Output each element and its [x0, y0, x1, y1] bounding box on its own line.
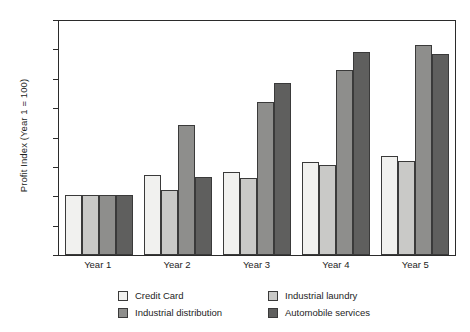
bar — [274, 83, 291, 255]
plot-border-right — [455, 20, 456, 256]
legend-item-label: Industrial laundry — [285, 290, 357, 301]
bar — [65, 195, 82, 256]
bar — [257, 102, 274, 255]
bar — [432, 54, 449, 256]
bar — [415, 45, 432, 255]
x-axis-tick-label: Year 1 — [62, 259, 134, 270]
y-axis-tick — [53, 20, 58, 21]
bar — [161, 190, 178, 255]
legend-item-label: Credit Card — [135, 290, 184, 301]
chart-legend: Credit CardIndustrial laundryIndustrial … — [118, 290, 418, 318]
legend-swatch-icon — [268, 308, 278, 318]
y-axis-tick — [53, 167, 58, 168]
bar — [353, 52, 370, 255]
bar-group — [223, 20, 291, 255]
bar — [178, 125, 195, 255]
bar-group — [302, 20, 370, 255]
bar — [319, 165, 336, 255]
bar-chart: Profit Index (Year 1 = 100) 050100150200… — [0, 0, 470, 332]
bar — [223, 172, 240, 255]
y-axis-tick — [53, 255, 58, 256]
x-axis-tick-label: Year 3 — [220, 259, 292, 270]
y-axis-tick — [53, 226, 58, 227]
y-axis-tick — [53, 138, 58, 139]
legend-item[interactable]: Automobile services — [268, 307, 418, 318]
bar — [336, 70, 353, 255]
y-axis-tick — [53, 49, 58, 50]
bar — [240, 178, 257, 255]
y-axis-title: Profit Index (Year 1 = 100) — [18, 21, 29, 251]
x-axis-tick-label: Year 5 — [379, 259, 451, 270]
bar-group — [381, 20, 449, 255]
bar — [116, 195, 133, 256]
bar — [99, 195, 116, 256]
legend-swatch-icon — [118, 291, 128, 301]
x-axis-tick-labels: Year 1Year 2Year 3Year 4Year 5 — [58, 259, 455, 270]
bar-group — [65, 20, 133, 255]
y-axis-tick — [53, 79, 58, 80]
legend-item[interactable]: Industrial laundry — [268, 290, 418, 301]
y-axis-tick — [53, 196, 58, 197]
x-axis-tick-label: Year 2 — [141, 259, 213, 270]
bar-groups — [59, 20, 454, 255]
x-axis-tick-label: Year 4 — [300, 259, 372, 270]
bar-group — [144, 20, 212, 255]
bar — [82, 195, 99, 256]
bar — [302, 162, 319, 255]
bar — [398, 161, 415, 255]
legend-item[interactable]: Credit Card — [118, 290, 268, 301]
legend-item-label: Automobile services — [285, 307, 370, 318]
bar — [144, 175, 161, 255]
legend-swatch-icon — [268, 291, 278, 301]
legend-item[interactable]: Industrial distribution — [118, 307, 268, 318]
bar — [381, 156, 398, 255]
y-axis-tick — [53, 108, 58, 109]
bar — [195, 177, 212, 255]
plot-area: 050100150200250300350400 — [58, 20, 455, 255]
legend-item-label: Industrial distribution — [135, 307, 222, 318]
legend-swatch-icon — [118, 308, 128, 318]
